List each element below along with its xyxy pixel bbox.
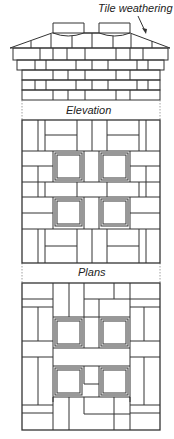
chimney-stack-diagram [0, 0, 174, 439]
tile-weathering [10, 33, 170, 48]
brick-courses [13, 48, 168, 100]
plan-upper [22, 120, 160, 263]
tile-weathering-leader [138, 16, 147, 34]
plan-lower [22, 283, 160, 430]
